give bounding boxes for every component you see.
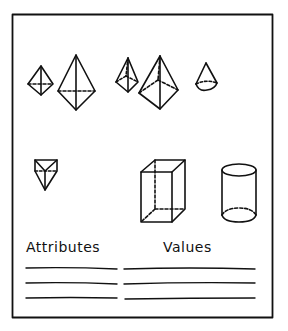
attribute-line-3 bbox=[26, 298, 117, 299]
triangular-bipyramid-icon bbox=[58, 55, 95, 110]
cone-icon bbox=[196, 63, 217, 90]
value-line-3 bbox=[125, 298, 255, 299]
value-line-1 bbox=[124, 268, 255, 269]
attribute-line-1 bbox=[26, 268, 117, 269]
rectangular-prism-icon bbox=[141, 160, 185, 222]
attribute-line-2 bbox=[26, 283, 117, 284]
worksheet: Attributes Values bbox=[0, 0, 288, 331]
worksheet-drawing bbox=[0, 0, 288, 331]
value-line-2 bbox=[124, 283, 255, 284]
values-header: Values bbox=[163, 240, 212, 254]
small-square-pyramid-icon bbox=[116, 58, 138, 92]
large-square-pyramid-icon bbox=[139, 56, 178, 109]
cylinder-icon bbox=[222, 164, 256, 222]
triangular-prism-icon bbox=[35, 160, 57, 190]
answer-lines bbox=[26, 268, 255, 299]
attributes-header: Attributes bbox=[26, 240, 100, 254]
small-octahedron-icon bbox=[28, 66, 53, 95]
